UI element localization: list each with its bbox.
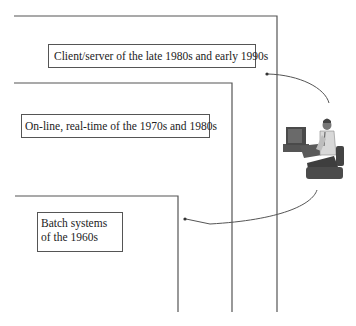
batch-label-line1: Batch systems: [41, 216, 122, 230]
arrow-to-batch: [183, 190, 317, 224]
online-realtime-label: On-line, real-time of the 1970s and 1980…: [21, 114, 210, 138]
batch-systems-label: Batch systems of the 1960s: [37, 212, 123, 252]
batch-label-line2: of the 1960s: [41, 230, 122, 244]
client-server-label: Client/server of the late 1980s and earl…: [48, 44, 256, 68]
user-at-computer-icon: [283, 119, 344, 180]
arrow-to-client-server: [265, 72, 329, 103]
